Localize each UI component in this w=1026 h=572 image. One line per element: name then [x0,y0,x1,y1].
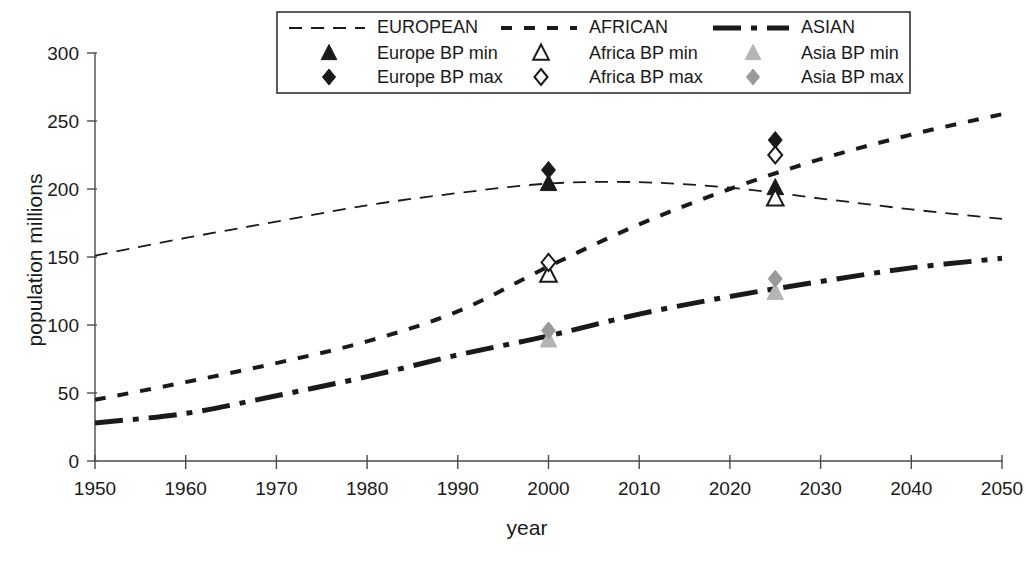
x-tick-label: 1950 [74,478,116,499]
y-tick-label: 200 [47,179,79,200]
x-tick-label: 2000 [527,478,569,499]
legend-label-line-african: AFRICAN [589,17,668,37]
data-marker-africa-bp-max [768,147,782,164]
legend-label-marker-africa-bp-min: Africa BP min [589,43,698,63]
y-axis-title: population millions [23,174,46,347]
y-tick-label: 250 [47,111,79,132]
legend-label-marker-europe-bp-max: Europe BP max [377,67,503,87]
x-tick-label: 1970 [255,478,297,499]
chart-figure: 050100150200250300 195019601970198019902… [0,0,1026,572]
y-tick-label: 150 [47,247,79,268]
legend-label-marker-asia-bp-min: Asia BP min [801,43,899,63]
x-axis: 1950196019701980199020002010202020302040… [74,455,1023,499]
data-marker-europe-bp-max [542,161,556,178]
legend-label-marker-asia-bp-max: Asia BP max [801,67,904,87]
legend-label-marker-africa-bp-max: Africa BP max [589,67,703,87]
x-tick-label: 1990 [437,478,479,499]
series-line-european [95,182,1002,256]
chart-legend: EUROPEANAFRICANASIANEurope BP minAfrica … [277,12,910,93]
y-tick-label: 50 [58,383,79,404]
y-axis: 050100150200250300 [47,43,97,472]
x-tick-label: 2010 [618,478,660,499]
legend-label-line-european: EUROPEAN [377,17,478,37]
x-tick-label: 1980 [346,478,388,499]
x-tick-label: 2040 [890,478,932,499]
population-projection-line-chart: 050100150200250300 195019601970198019902… [0,0,1026,572]
y-tick-label: 0 [68,451,79,472]
y-tick-label: 300 [47,43,79,64]
legend-label-marker-europe-bp-min: Europe BP min [377,43,498,63]
x-tick-label: 1960 [165,478,207,499]
x-tick-label: 2020 [709,478,751,499]
x-axis-title: year [507,516,548,539]
data-markers-layer [540,132,783,347]
legend-label-line-asian: ASIAN [801,17,855,37]
x-tick-label: 2030 [799,478,841,499]
x-tick-label: 2050 [981,478,1023,499]
data-marker-asia-bp-max [768,270,782,287]
y-tick-label: 100 [47,315,79,336]
